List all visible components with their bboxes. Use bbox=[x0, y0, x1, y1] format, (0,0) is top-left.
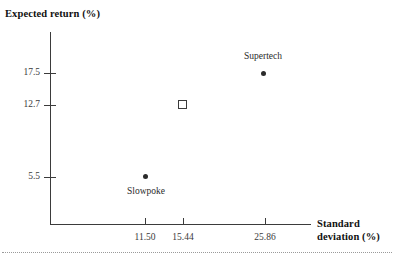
x-axis-tick-label-25-86: 25.86 bbox=[243, 232, 287, 243]
y-axis-title: Expected return (%) bbox=[5, 8, 100, 21]
scatter-chart: Expected return (%) 17.5 12.7 5.5 11.50 … bbox=[0, 0, 394, 265]
y-axis-tick-label-17-5: 17.5 bbox=[6, 67, 40, 78]
y-axis-line bbox=[50, 32, 51, 225]
data-point-label-slowpoke: Slowpoke bbox=[111, 186, 181, 197]
x-axis-tick-label-15-44: 15.44 bbox=[161, 232, 205, 243]
x-axis-tick-11-50 bbox=[145, 218, 146, 225]
data-point-marker-slowpoke bbox=[143, 174, 148, 179]
x-axis-tick-25-86 bbox=[265, 218, 266, 225]
x-axis-tick-15-44 bbox=[183, 218, 184, 225]
y-axis-tick-label-5-5: 5.5 bbox=[6, 171, 40, 182]
data-point-marker-supertech bbox=[261, 71, 266, 76]
y-axis-tick-17-5 bbox=[44, 73, 56, 74]
y-axis-tick-12-7 bbox=[44, 105, 56, 106]
data-point-label-supertech: Supertech bbox=[228, 51, 298, 62]
data-point-marker-portfolio bbox=[178, 100, 187, 109]
x-axis-line bbox=[50, 224, 311, 225]
page-divider bbox=[2, 252, 392, 254]
y-axis-tick-label-12-7: 12.7 bbox=[6, 99, 40, 110]
x-axis-title: Standard deviation (%) bbox=[317, 218, 393, 243]
y-axis-tick-5-5 bbox=[44, 177, 56, 178]
